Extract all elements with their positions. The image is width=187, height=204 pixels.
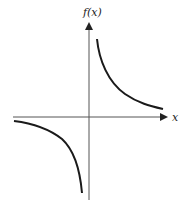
- curve-branch-positive: [97, 39, 163, 109]
- y-axis-label: f(x): [82, 6, 102, 19]
- graph-canvas: f(x) x: [0, 0, 187, 204]
- curve-branch-negative: [14, 121, 82, 193]
- x-axis-label: x: [172, 111, 179, 124]
